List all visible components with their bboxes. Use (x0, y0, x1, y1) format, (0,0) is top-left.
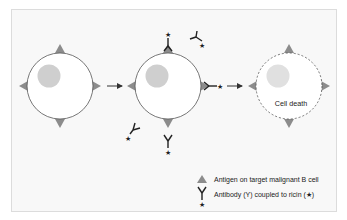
cell-3-dead: Cell death (248, 44, 330, 128)
diagram-canvas: ★ ★ ★ ★ ★ (0, 0, 347, 220)
legend-antigen-label: Antigen on target malignant B cell (214, 176, 319, 184)
ricin-star-icon: ★ (217, 83, 223, 90)
cell-membrane-dashed (256, 53, 322, 119)
cell-membrane (135, 53, 201, 119)
ricin-star-icon: ★ (125, 135, 131, 142)
nucleus (146, 65, 169, 88)
cell-2-antibody-binding: ★ ★ ★ ★ ★ (125, 31, 223, 156)
cell-membrane (27, 53, 93, 119)
free-antibody (130, 123, 140, 134)
legend-antibody-label: Antibody (Y) coupled to ricin (★) (214, 191, 314, 199)
cell-1-target (19, 44, 101, 128)
antigen-top (55, 44, 65, 53)
nucleus (38, 65, 61, 88)
antigen-top (284, 44, 294, 53)
cell-death-label: Cell death (275, 99, 307, 108)
free-antibody (164, 135, 172, 148)
antigen-bottom (163, 119, 173, 128)
ricin-star-icon: ★ (165, 31, 171, 38)
legend-antigen-icon (197, 175, 207, 183)
antigen-bottom (284, 119, 294, 128)
free-antibody (190, 31, 202, 41)
antigen-left (248, 81, 257, 91)
legend-ricin-star-icon: ★ (199, 201, 205, 208)
ricin-star-icon: ★ (165, 149, 171, 156)
nucleus (267, 65, 290, 88)
legend: Antigen on target malignant B cell ★ Ant… (197, 175, 319, 208)
antigen-bottom (55, 119, 65, 128)
legend-antibody-icon (198, 187, 206, 200)
ricin-star-icon: ★ (199, 42, 205, 49)
